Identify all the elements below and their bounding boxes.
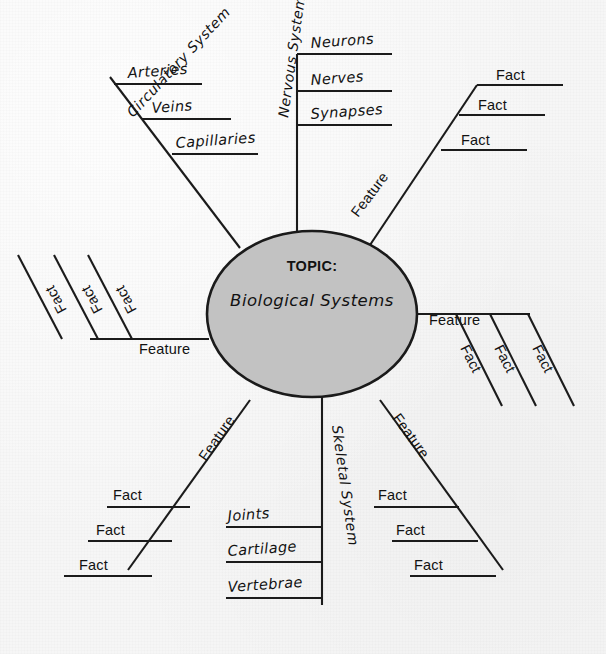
sub-label-fact: Fact bbox=[496, 67, 525, 83]
sub-item-vertebrae[interactable]: Vertebrae bbox=[226, 574, 322, 598]
branch-label-feature-lower-right: Feature bbox=[390, 410, 433, 461]
sub-label-fact: Fact bbox=[529, 342, 556, 375]
sub-item-cartilage[interactable]: Cartilage bbox=[226, 538, 322, 562]
sub-item-capillaries[interactable]: Capillaries bbox=[172, 129, 258, 154]
sub-item-fact[interactable]: Fact bbox=[490, 314, 536, 406]
sub-item-fact[interactable]: Fact bbox=[107, 487, 190, 507]
sub-label-fact: Fact bbox=[457, 342, 484, 375]
sub-item-nerves[interactable]: Nerves bbox=[297, 68, 392, 91]
sub-item-fact[interactable]: Fact bbox=[64, 557, 152, 576]
branch-label-feature-lower-left: Feature bbox=[195, 412, 238, 463]
branch-feature-left[interactable]: Feature Fact Fact Fact bbox=[18, 255, 209, 357]
sub-label-fact: Fact bbox=[113, 487, 142, 503]
sub-label-fact: Fact bbox=[79, 557, 108, 573]
sub-label-synapses: Synapses bbox=[310, 101, 383, 122]
sub-item-fact[interactable]: Fact bbox=[477, 67, 563, 85]
sub-label-fact: Fact bbox=[42, 283, 70, 316]
center-ellipse-shape bbox=[207, 231, 417, 397]
topic-value: Biological Systems bbox=[230, 291, 394, 310]
sub-label-nerves: Nerves bbox=[310, 68, 364, 88]
sub-label-neurons: Neurons bbox=[310, 31, 374, 51]
sub-label-fact: Fact bbox=[78, 283, 106, 316]
sub-label-fact: Fact bbox=[414, 557, 443, 573]
sub-label-cartilage: Cartilage bbox=[227, 538, 297, 559]
branch-feature-upper-right[interactable]: Feature Fact Fact Fact bbox=[348, 67, 563, 245]
branch-feature-lower-right[interactable]: Feature Fact Fact Fact bbox=[374, 400, 503, 576]
branch-feature-right[interactable]: Feature Fact Fact Fact bbox=[415, 312, 574, 406]
sub-label-capillaries: Capillaries bbox=[175, 129, 256, 151]
sub-item-fact[interactable]: Fact bbox=[410, 557, 496, 576]
branch-label-skeletal-system: Skeletal System bbox=[329, 424, 362, 547]
sub-label-veins: Veins bbox=[151, 97, 193, 116]
mindmap-page: Circulatory System Arteries Veins Capill… bbox=[0, 0, 606, 654]
center-topic-node[interactable]: TOPIC: Biological Systems bbox=[207, 231, 417, 397]
sub-label-fact: Fact bbox=[461, 132, 490, 148]
branch-circulatory-system[interactable]: Circulatory System Arteries Veins Capill… bbox=[110, 4, 258, 248]
sub-label-fact: Fact bbox=[112, 283, 140, 316]
sub-item-veins[interactable]: Veins bbox=[142, 97, 231, 119]
sub-item-fact[interactable]: Fact bbox=[392, 522, 478, 541]
sub-label-fact: Fact bbox=[96, 522, 125, 538]
branch-label-feature-left: Feature bbox=[139, 341, 190, 357]
sub-label-joints: Joints bbox=[224, 505, 270, 524]
sub-item-neurons[interactable]: Neurons bbox=[297, 31, 392, 54]
sub-item-fact[interactable]: Fact bbox=[441, 132, 527, 150]
branch-label-nervous-system: Nervous System bbox=[275, 0, 308, 118]
sub-item-joints[interactable]: Joints bbox=[224, 505, 322, 527]
branch-label-feature-upper-right: Feature bbox=[348, 169, 392, 220]
sub-item-fact[interactable]: Fact bbox=[528, 314, 574, 406]
sub-label-fact: Fact bbox=[396, 522, 425, 538]
sub-label-fact: Fact bbox=[491, 342, 518, 375]
topic-label: TOPIC: bbox=[287, 258, 338, 274]
sub-item-fact[interactable]: Fact bbox=[459, 97, 545, 115]
sub-item-fact[interactable]: Fact bbox=[18, 255, 70, 339]
sub-item-synapses[interactable]: Synapses bbox=[297, 101, 392, 125]
branch-feature-lower-left[interactable]: Feature Fact Fact Fact bbox=[64, 400, 250, 576]
branch-skeletal-system[interactable]: Skeletal System Joints Cartilage Vertebr… bbox=[224, 396, 362, 605]
branch-label-feature-right: Feature bbox=[429, 312, 480, 328]
mindmap-canvas: Circulatory System Arteries Veins Capill… bbox=[0, 0, 606, 654]
sub-label-fact: Fact bbox=[478, 97, 507, 113]
branch-spine-feature-upper-right bbox=[370, 85, 477, 245]
sub-label-arteries: Arteries bbox=[126, 61, 188, 81]
sub-label-fact: Fact bbox=[378, 487, 407, 503]
sub-label-vertebrae: Vertebrae bbox=[227, 574, 303, 595]
